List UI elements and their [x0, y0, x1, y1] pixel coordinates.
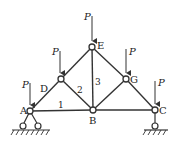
load-label-E: P: [83, 11, 91, 22]
node-label-A: A: [19, 105, 28, 116]
node-label-G: G: [130, 74, 138, 85]
member-label-3: 3: [95, 77, 101, 87]
node-label-C: C: [159, 105, 167, 116]
member-DE: [61, 47, 92, 79]
load-label-C: P: [157, 77, 165, 88]
joint-C: [152, 107, 158, 113]
node-label-E: E: [97, 40, 104, 51]
load-label-G: P: [128, 46, 136, 57]
joint-A: [27, 108, 33, 114]
joint-E: [89, 44, 95, 50]
member-label-1: 1: [58, 100, 64, 110]
truss-diagram: P P P P P A B C D E G 1 2 3: [0, 0, 179, 153]
joint-G: [123, 76, 129, 82]
member-AB: [30, 110, 93, 111]
joint-D: [58, 76, 64, 82]
joint-B: [90, 107, 96, 113]
node-label-D: D: [40, 83, 48, 94]
load-label-A: P: [21, 79, 29, 90]
load-label-D: P: [51, 46, 59, 57]
member-EB: [92, 47, 93, 110]
node-label-B: B: [89, 115, 96, 126]
member-EG: [92, 47, 126, 79]
member-label-2: 2: [77, 85, 83, 95]
